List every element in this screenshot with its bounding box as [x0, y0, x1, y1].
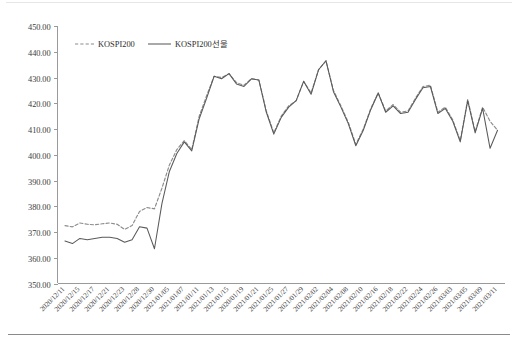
y-tick-label: 420.00: [28, 100, 50, 109]
legend-label-kospi200-futures: KOSPI200선물: [175, 40, 228, 49]
y-tick-labels: 450.00440.00430.00420.00410.00400.00390.…: [28, 23, 50, 290]
document-page: 450.00440.00430.00420.00410.00400.00390.…: [0, 0, 518, 351]
y-tick-label: 380.00: [28, 203, 50, 212]
series-line-kospi200-futures: [65, 61, 498, 249]
y-tick-label: 370.00: [28, 229, 50, 238]
series-group: [65, 61, 498, 249]
y-tick-label: 450.00: [28, 23, 50, 32]
y-tick-label: 400.00: [28, 152, 50, 161]
chart-legend: KOSPI200 KOSPI200선물: [75, 40, 228, 49]
y-tick-label: 440.00: [28, 49, 50, 58]
x-tick-labels: 2020/12/112020/12/152020/12/172020/12/21…: [38, 285, 499, 314]
chart-canvas: 450.00440.00430.00420.00410.00400.00390.…: [0, 0, 518, 332]
legend-label-kospi200: KOSPI200: [98, 40, 135, 49]
x-axis: 2020/12/112020/12/152020/12/172020/12/21…: [38, 284, 505, 314]
y-tick-label: 390.00: [28, 178, 50, 187]
y-tick-label: 410.00: [28, 126, 50, 135]
y-tick-label: 350.00: [28, 281, 50, 290]
kospi200-line-chart: 450.00440.00430.00420.00410.00400.00390.…: [0, 0, 518, 332]
y-tick-label: 360.00: [28, 255, 50, 264]
bottom-horizontal-rule: [8, 334, 510, 335]
y-axis: 450.00440.00430.00420.00410.00400.00390.…: [28, 23, 57, 290]
series-line-kospi200: [65, 61, 498, 230]
y-tick-label: 430.00: [28, 75, 50, 84]
y-tick-marks: [54, 27, 58, 285]
